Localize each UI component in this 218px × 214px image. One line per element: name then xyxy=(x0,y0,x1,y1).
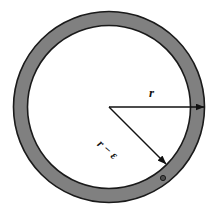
point-marker xyxy=(160,175,165,180)
annulus-figure: r r − ε xyxy=(0,0,218,214)
annulus-diagram-svg xyxy=(0,0,218,214)
radius-outer-label: r xyxy=(149,86,154,99)
